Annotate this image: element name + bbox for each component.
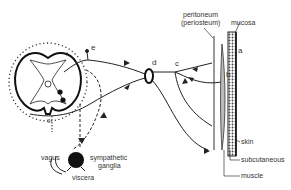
spinal-cord: [9, 43, 87, 121]
label-periosteum: (periosteum): [181, 19, 220, 27]
neuron-dot-1: [57, 89, 62, 94]
c-to-a-line: [152, 63, 212, 72]
peritoneum-leader: [204, 28, 213, 38]
letter-a: a: [238, 46, 242, 55]
gray-matter-left: [30, 60, 44, 104]
neuron-dot-2: [60, 97, 65, 102]
muscle-layer: [221, 44, 226, 150]
label-subcutaneous: subcutaneous: [241, 156, 285, 164]
letter-f: f: [66, 50, 68, 59]
label-skin: skin: [241, 138, 253, 146]
letter-d: d: [152, 58, 156, 67]
label-viscera: viscera: [72, 174, 94, 182]
arrow-b: [188, 77, 194, 82]
gray-matter-top: [30, 60, 66, 64]
letter-g: g: [47, 116, 50, 125]
label-mucosa: mucosa: [231, 19, 256, 27]
afferent-pathway-diagram: peritoneum (periosteum) mucosa skin subc…: [0, 0, 291, 190]
arrow-top: [124, 60, 130, 66]
viscera-branch-1: [67, 167, 71, 171]
letter-e: e: [91, 43, 95, 52]
label-sympathetic: sympathetic: [90, 154, 127, 162]
afferent-top: [88, 60, 145, 74]
arrow-lower: [182, 78, 188, 84]
arrow-muscle: [204, 148, 210, 154]
arrow-up-dashed: [100, 112, 107, 118]
sympathetic-ganglia-node: [68, 152, 84, 168]
dorsal-root-ganglion: [145, 69, 153, 83]
label-peritoneum: peritoneum: [183, 11, 218, 19]
label-muscle: muscle: [241, 172, 263, 180]
label-vagus: vagus: [41, 154, 60, 162]
central-canal: [45, 81, 51, 87]
gray-matter-right: [52, 60, 66, 104]
e-terminal-dot: [86, 50, 89, 53]
viscera-branch-2: [81, 167, 85, 171]
arrow-down-ganglia: [78, 138, 85, 144]
label-ganglia: ganglia: [98, 162, 121, 170]
tissue-layers: [214, 32, 236, 156]
letter-c: c: [175, 59, 179, 68]
letter-b: b: [226, 70, 230, 79]
e-tick: [87, 52, 88, 60]
gray-matter-bottom: [30, 101, 66, 104]
skin-layer: [228, 32, 236, 156]
c-to-b-line: [175, 72, 222, 83]
